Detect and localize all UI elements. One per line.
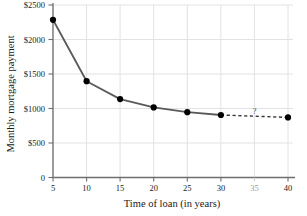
data-point-markers <box>50 17 291 121</box>
x-tick-labels: 5 10 15 20 25 30 35 40 <box>51 183 292 193</box>
y-tick-label-0: 0 <box>41 173 45 183</box>
x-tick-label-15: 15 <box>116 183 125 193</box>
question-mark-annotation: ? <box>252 106 256 116</box>
data-line-solid <box>53 20 221 115</box>
y-tick-label-2500: $2500 <box>24 0 45 10</box>
x-tick-label-40: 40 <box>284 183 293 193</box>
axis-lines <box>53 3 295 178</box>
x-tick-label-35: 35 <box>250 183 259 193</box>
y-tick-marks <box>49 5 54 178</box>
y-tick-labels: 0 $500 $1000 $1500 $2000 $2500 <box>24 0 45 183</box>
y-tick-label-2000: $2000 <box>24 35 45 45</box>
x-tick-label-10: 10 <box>82 183 91 193</box>
x-tick-label-5: 5 <box>51 183 55 193</box>
data-point-30 <box>218 112 224 118</box>
x-tick-label-25: 25 <box>183 183 192 193</box>
y-tick-label-1500: $1500 <box>24 69 45 79</box>
x-axis-title: Time of loan (in years) <box>124 198 221 210</box>
data-point-25 <box>184 109 190 115</box>
data-point-15 <box>117 96 123 102</box>
y-tick-label-1000: $1000 <box>24 104 45 114</box>
line-chart: ? 0 $500 $1000 $1500 $2000 $2500 5 10 15… <box>0 0 307 216</box>
y-tick-label-500: $500 <box>28 138 45 148</box>
y-axis-title: Monthly mortgage payment <box>5 35 16 152</box>
data-point-10 <box>84 78 90 84</box>
x-tick-label-30: 30 <box>217 183 226 193</box>
x-tick-label-20: 20 <box>149 183 158 193</box>
data-point-5 <box>50 17 56 23</box>
data-point-40 <box>285 114 291 120</box>
grid-lines <box>53 5 293 178</box>
data-point-20 <box>151 104 157 110</box>
chart-figure: ? 0 $500 $1000 $1500 $2000 $2500 5 10 15… <box>0 0 307 216</box>
